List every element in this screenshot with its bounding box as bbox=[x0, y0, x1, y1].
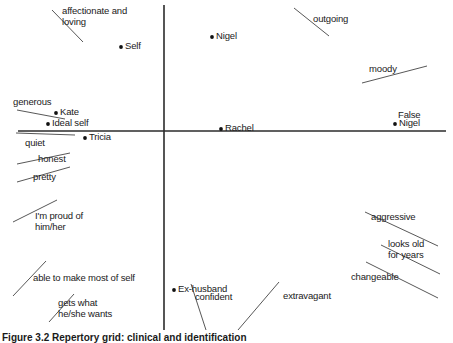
group-label: False bbox=[398, 110, 420, 121]
construct-label: able to make most of self bbox=[33, 273, 135, 284]
construct-label: honest bbox=[38, 154, 66, 165]
construct-label: changeable bbox=[351, 272, 399, 283]
element-point bbox=[54, 111, 58, 115]
construct-label: quiet bbox=[25, 138, 45, 149]
element-label: Rachel bbox=[225, 123, 254, 134]
element-point bbox=[219, 127, 223, 131]
element-point bbox=[119, 45, 123, 49]
element-point bbox=[393, 122, 397, 126]
construct-label: extravagant bbox=[283, 291, 331, 302]
construct-label: outgoing bbox=[313, 14, 348, 25]
figure-caption: Figure 3.2 Repertory grid: clinical and … bbox=[2, 332, 451, 343]
element-point bbox=[46, 122, 50, 126]
element-points-group bbox=[46, 35, 397, 292]
construct-label: looks old for years bbox=[388, 239, 424, 260]
element-label: Ideal self bbox=[52, 118, 89, 129]
construct-label: pretty bbox=[33, 172, 56, 183]
element-point bbox=[83, 136, 87, 140]
construct-label: aggressive bbox=[371, 212, 415, 223]
construct-line bbox=[238, 282, 279, 330]
element-label: Ex-husband bbox=[178, 284, 227, 295]
construct-label: affectionate and loving bbox=[62, 6, 127, 27]
element-label: Tricia bbox=[89, 132, 111, 143]
construct-label: generous bbox=[13, 97, 51, 108]
element-point bbox=[210, 35, 214, 39]
construct-line bbox=[16, 133, 75, 135]
repertory-grid-figure: affectionate and lovingoutgoingmoodygene… bbox=[0, 0, 453, 343]
construct-label: I'm proud of him/her bbox=[35, 211, 83, 232]
element-point bbox=[172, 288, 176, 292]
construct-label: gets what he/she wants bbox=[58, 298, 112, 319]
element-label: Nigel bbox=[216, 31, 237, 42]
element-label: Self bbox=[125, 41, 141, 52]
construct-label: moody bbox=[369, 64, 397, 75]
element-label: Kate bbox=[60, 107, 79, 118]
